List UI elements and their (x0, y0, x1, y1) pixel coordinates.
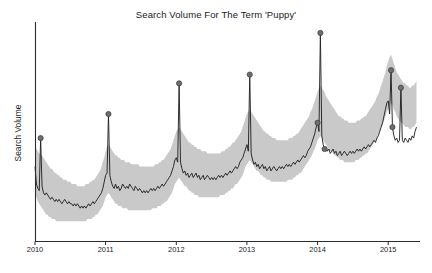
x-tick-label-2015: 2015 (368, 245, 408, 254)
x-tick-label-2012: 2012 (156, 245, 196, 254)
confidence-band (35, 55, 416, 221)
x-tick-label-2010: 2010 (15, 245, 55, 254)
anomaly-marker (177, 81, 182, 86)
anomaly-marker (390, 125, 395, 130)
x-tick-label-2011: 2011 (86, 245, 126, 254)
anomaly-marker (315, 120, 320, 125)
anomaly-marker (388, 68, 393, 73)
chart-canvas: Search Volume For The Term 'Puppy' Searc… (0, 0, 432, 273)
x-tick-label-2013: 2013 (227, 245, 267, 254)
plot-svg (0, 0, 432, 273)
anomaly-marker (247, 72, 252, 77)
x-tick-label-2014: 2014 (298, 245, 338, 254)
anomaly-marker (398, 85, 403, 90)
anomaly-marker (322, 146, 327, 151)
anomaly-marker (38, 135, 43, 140)
anomaly-marker (106, 111, 111, 116)
anomaly-marker (318, 30, 323, 35)
